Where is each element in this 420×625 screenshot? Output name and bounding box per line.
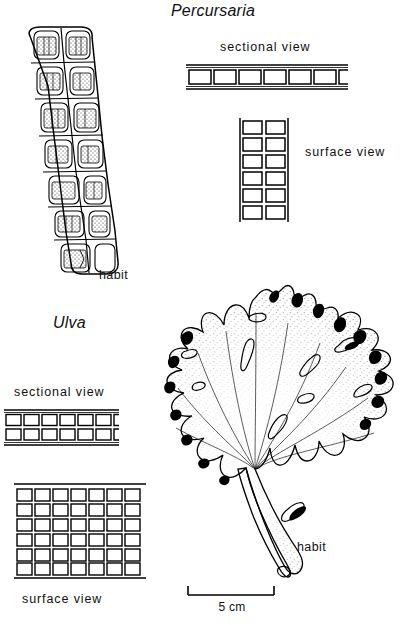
percursaria-surface-view-label: surface view bbox=[305, 145, 385, 159]
percursaria-surface-view-diagram bbox=[238, 118, 294, 222]
ulva-sectional-view-label: sectional view bbox=[14, 385, 104, 399]
figure-root: Percursaria bbox=[0, 0, 420, 625]
ulva-habit-drawing bbox=[128, 283, 420, 583]
percursaria-genus-title: Percursaria bbox=[171, 2, 255, 20]
ulva-genus-title: Ulva bbox=[53, 314, 86, 332]
ulva-surface-view-label: surface view bbox=[22, 592, 102, 606]
percursaria-habit-label: habit bbox=[99, 268, 128, 282]
ulva-sectional-view-diagram bbox=[4, 408, 121, 448]
percursaria-sectional-view-label: sectional view bbox=[220, 40, 310, 54]
ulva-habit-label: habit bbox=[297, 540, 326, 554]
percursaria-habit-drawing bbox=[18, 26, 148, 276]
scale-bar-label: 5 cm bbox=[186, 600, 278, 614]
percursaria-sectional-view-diagram bbox=[186, 62, 351, 92]
scale-bar bbox=[186, 584, 278, 598]
